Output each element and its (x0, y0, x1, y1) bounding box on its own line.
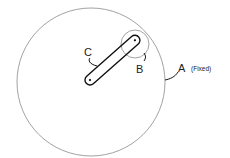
leader-c (89, 58, 97, 66)
leader-b (144, 53, 146, 61)
pivot-dot (133, 39, 136, 42)
mechanism-diagram: C B A (Fixed) (0, 0, 230, 158)
fixed-circle-a (17, 8, 165, 156)
link-c (83, 33, 142, 87)
label-b: B (136, 63, 143, 75)
label-c: C (84, 46, 92, 58)
pivot-dot (88, 78, 91, 81)
label-a-note: (Fixed) (191, 65, 211, 73)
label-a: A (178, 62, 186, 74)
leader-a (165, 72, 178, 80)
